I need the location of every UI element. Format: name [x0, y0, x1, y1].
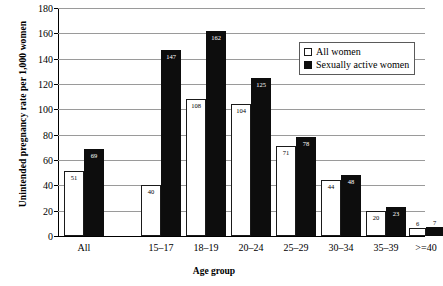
gridline-120	[58, 84, 425, 85]
y-tick-label-60: 60	[43, 155, 53, 166]
x-category-label-3: 20–24	[239, 242, 264, 253]
bar-sexually-active-women: 48	[341, 175, 361, 236]
y-tick-mark-0	[54, 236, 58, 237]
y-tick-label-0: 0	[48, 231, 53, 242]
y-axis-title: Unintended pregnancy rate per 1,000 wome…	[18, 0, 28, 229]
bar-value-label: 108	[187, 102, 205, 109]
y-tick-label-180: 180	[38, 3, 53, 14]
x-category-label-7: >=40	[415, 242, 436, 253]
y-tick-label-160: 160	[38, 28, 53, 39]
bar-value-label: 7	[427, 219, 442, 226]
bar-all-women: 51	[64, 171, 84, 236]
bar-sexually-active-women: 125	[251, 78, 271, 236]
y-tick-label-120: 120	[38, 79, 53, 90]
y-tick-mark-180	[54, 8, 58, 9]
bar-value-label: 104	[232, 107, 250, 114]
y-tick-mark-20	[54, 211, 58, 212]
y-tick-label-100: 100	[38, 104, 53, 115]
bar-value-label: 51	[65, 174, 83, 181]
legend-entry-sexually-active-women: Sexually active women	[304, 58, 409, 71]
bar-sexually-active-women: 23	[386, 207, 406, 236]
x-category-label-2: 18–19	[194, 242, 219, 253]
bar-value-label: 125	[252, 81, 270, 88]
y-tick-mark-160	[54, 33, 58, 34]
y-tick-mark-80	[54, 135, 58, 136]
bar-sexually-active-women: 78	[296, 137, 316, 236]
bar-sexually-active-women: 69	[84, 149, 104, 236]
bar-sexually-active-women: 7	[426, 227, 443, 236]
y-tick-mark-60	[54, 160, 58, 161]
x-category-label-6: 35–39	[374, 242, 399, 253]
bar-all-women: 40	[141, 185, 161, 236]
gridline-0	[58, 236, 425, 237]
gridline-160	[58, 33, 425, 34]
y-tick-label-140: 140	[38, 53, 53, 64]
y-tick-label-20: 20	[43, 205, 53, 216]
bar-all-women: 71	[276, 146, 296, 236]
chart-legend: All women Sexually active women	[299, 42, 415, 75]
bar-all-women: 20	[366, 211, 386, 236]
bar-value-label: 23	[387, 210, 405, 217]
bar-value-label: 48	[342, 178, 360, 185]
bar-all-women: 108	[186, 99, 206, 236]
x-category-label-5: 30–34	[329, 242, 354, 253]
bar-sexually-active-women: 147	[161, 50, 181, 236]
y-tick-mark-140	[54, 59, 58, 60]
bar-value-label: 20	[367, 214, 385, 221]
bar-value-label: 6	[410, 220, 425, 227]
x-category-label-4: 25–29	[284, 242, 309, 253]
gridline-180	[58, 8, 425, 9]
bar-all-women: 44	[321, 180, 341, 236]
legend-swatch-solid-icon	[304, 61, 312, 69]
bar-value-label: 69	[85, 152, 103, 159]
y-tick-mark-100	[54, 109, 58, 110]
legend-entry-all-women: All women	[304, 45, 409, 58]
bar-value-label: 71	[277, 149, 295, 156]
legend-swatch-hollow-icon	[304, 48, 312, 56]
y-tick-mark-40	[54, 185, 58, 186]
x-category-label-0: All	[78, 242, 91, 253]
bar-value-label: 44	[322, 183, 340, 190]
bar-all-women: 6	[409, 228, 426, 236]
x-category-label-1: 15–17	[149, 242, 174, 253]
x-axis-title: Age group	[0, 266, 428, 276]
y-axis-line	[58, 8, 59, 236]
y-tick-label-40: 40	[43, 180, 53, 191]
legend-label-sexually-active-women: Sexually active women	[316, 59, 409, 70]
y-tick-mark-120	[54, 84, 58, 85]
bar-value-label: 78	[297, 140, 315, 147]
legend-label-all-women: All women	[316, 46, 361, 57]
bar-value-label: 162	[207, 34, 225, 41]
bar-all-women: 104	[231, 104, 251, 236]
bar-value-label: 147	[162, 53, 180, 60]
bar-sexually-active-women: 162	[206, 31, 226, 236]
y-tick-label-80: 80	[43, 129, 53, 140]
bar-value-label: 40	[142, 188, 160, 195]
